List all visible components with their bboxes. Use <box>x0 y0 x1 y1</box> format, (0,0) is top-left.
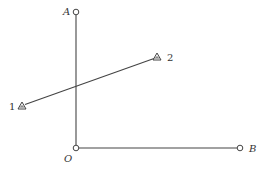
point-b-marker <box>237 145 243 151</box>
label-2: 2 <box>167 52 173 63</box>
label-1: 1 <box>9 101 15 112</box>
segment-1-2 <box>25 59 154 105</box>
diagram-canvas: A O B 1 2 <box>0 0 260 170</box>
point-2-triangle-icon <box>153 53 161 60</box>
label-b: B <box>248 143 256 154</box>
point-a-marker <box>73 9 79 15</box>
label-a: A <box>62 6 70 17</box>
point-o-marker <box>73 145 79 151</box>
label-o: O <box>64 153 72 164</box>
point-1-triangle-icon <box>18 102 26 109</box>
